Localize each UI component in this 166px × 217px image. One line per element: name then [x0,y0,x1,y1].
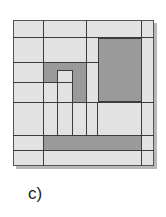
figure-caption: c) [28,184,42,204]
dark-region-l-shape-left [43,62,57,82]
grid-line [97,102,98,135]
grid-line [98,101,141,103]
grid-line [98,37,99,102]
grid-line [13,150,154,151]
grid-line [13,135,154,136]
grid-line [72,70,73,135]
grid-line [43,20,44,166]
grid-line [57,70,58,135]
grid-line [57,70,73,71]
grid-line [13,82,57,83]
dark-region-large-right-block [98,37,141,102]
grid-line [57,82,73,83]
grid-line [98,37,141,39]
dark-region-bottom-bar [43,135,141,150]
grid-line [141,20,142,166]
grid-figure: c) [0,0,166,217]
grid-line [86,20,87,135]
dark-region-l-shape-right [73,62,86,102]
